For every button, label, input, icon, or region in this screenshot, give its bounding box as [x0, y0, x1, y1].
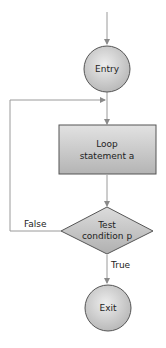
- test-label-line2: condition p: [82, 231, 132, 241]
- loop-label-line1: Loop: [96, 139, 118, 149]
- flowchart-canvas: Entry Loop statement a Test condition p …: [0, 0, 166, 348]
- false-edge-label: False: [24, 219, 47, 229]
- node-loop-statement: Loop statement a: [59, 125, 156, 174]
- entry-label: Entry: [95, 64, 120, 74]
- true-edge-label: True: [110, 260, 131, 270]
- loop-label-line2: statement a: [80, 151, 135, 161]
- node-exit: Exit: [85, 285, 131, 331]
- exit-label: Exit: [99, 303, 117, 313]
- node-test-condition: Test condition p: [61, 207, 153, 254]
- test-label-line1: Test: [97, 220, 116, 230]
- loop-rectangle: [59, 125, 156, 174]
- node-entry: Entry: [84, 46, 130, 92]
